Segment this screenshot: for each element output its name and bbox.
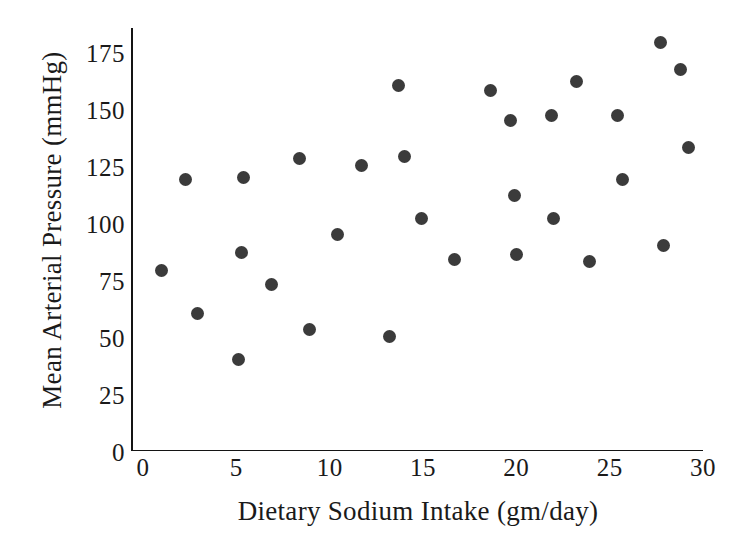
data-point [545,109,558,122]
data-point [415,212,428,225]
data-point [265,278,278,291]
y-tick-label: 125 [86,155,125,180]
x-tick-label: 0 [113,455,173,480]
data-point [331,228,344,241]
y-tick-label: 25 [99,383,125,408]
data-point [235,246,248,259]
x-axis-title: Dietary Sodium Intake (gm/day) [133,496,703,526]
data-point [293,152,306,165]
data-point [547,212,560,225]
data-point [179,173,192,186]
data-point [616,173,629,186]
data-point [682,141,695,154]
data-point [611,109,624,122]
data-point [355,159,368,172]
data-point [392,79,405,92]
y-axis-title: Mean Arterial Pressure (mmHg) [37,10,67,450]
data-point [508,189,521,202]
scatter-plot-figure: 0255075100125150175 051015202530 Mean Ar… [0,0,754,557]
x-tick-label: 30 [673,455,733,480]
x-tick-label: 15 [393,455,453,480]
x-tick-label: 5 [206,455,266,480]
data-point [570,75,583,88]
data-point [398,150,411,163]
y-tick-label: 175 [86,41,125,66]
data-point [510,248,523,261]
y-tick-label: 50 [99,326,125,351]
data-point [237,171,250,184]
data-point [303,323,316,336]
y-tick-label: 75 [99,269,125,294]
plot-area [133,28,703,450]
y-tick-label: 150 [86,98,125,123]
x-tick-label: 10 [300,455,360,480]
data-point [232,353,245,366]
x-tick-label: 20 [486,455,546,480]
data-point [504,114,517,127]
data-point [484,84,497,97]
data-point [674,63,687,76]
data-point [654,36,667,49]
y-tick-label: 100 [86,212,125,237]
data-point [583,255,596,268]
data-point [191,307,204,320]
data-point [448,253,461,266]
data-point [383,330,396,343]
data-point [155,264,168,277]
data-point [657,239,670,252]
x-tick-label: 25 [580,455,640,480]
